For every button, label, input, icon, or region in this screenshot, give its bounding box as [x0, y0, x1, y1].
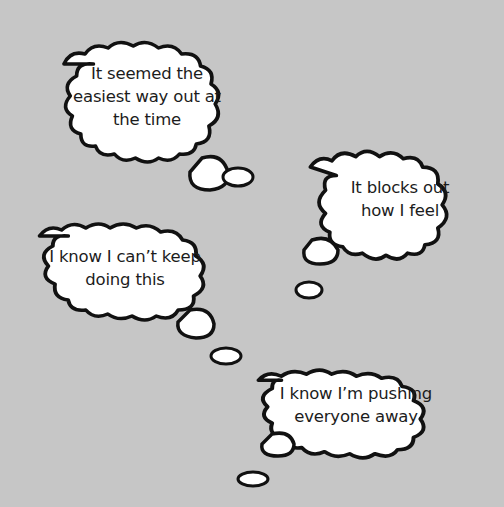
illustration-canvas: It seemed the easiest way out at the tim…: [0, 0, 504, 507]
thought-1-line-2: easiest way out at: [73, 85, 221, 108]
thought-3-line-1: I know I can’t keep: [49, 245, 201, 268]
thought-4-line-1: I know I’m pushing: [280, 382, 432, 405]
thought-tail-1: [218, 164, 258, 190]
thought-1-line-1: It seemed the: [73, 62, 221, 85]
thought-text-4: I know I’m pushing everyone away: [246, 370, 466, 440]
thought-tail-2: [292, 278, 326, 302]
thought-3-line-2: doing this: [49, 268, 201, 291]
thought-1-line-3: the time: [73, 108, 221, 131]
thought-4-line-2: everyone away: [280, 405, 432, 428]
thought-text-1: It seemed the easiest way out at the tim…: [62, 42, 232, 150]
thought-bubble-2: It blocks out how I feel: [290, 140, 500, 280]
thought-2-line-1: It blocks out: [351, 176, 450, 199]
thought-bubble-3: I know I can’t keep doing this: [14, 216, 250, 346]
thought-2-line-2: how I feel: [351, 199, 450, 222]
thought-tail-4: [234, 468, 272, 490]
thought-text-3: I know I can’t keep doing this: [14, 228, 236, 308]
thought-bubble-4: I know I’m pushing everyone away: [236, 362, 472, 472]
thought-text-2: It blocks out how I feel: [310, 156, 490, 242]
